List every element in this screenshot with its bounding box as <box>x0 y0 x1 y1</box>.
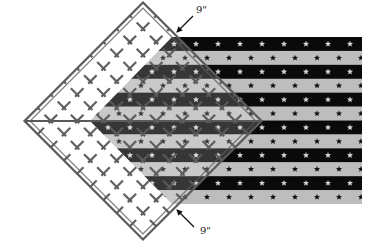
top-measure-label: 9" <box>196 5 207 15</box>
diagram-canvas <box>0 0 377 252</box>
top-arrow <box>177 16 193 32</box>
bottom-arrow <box>177 210 194 227</box>
bottom-measure-label: 9" <box>200 226 211 236</box>
quilt-diagram: 9" 9" <box>0 0 377 252</box>
